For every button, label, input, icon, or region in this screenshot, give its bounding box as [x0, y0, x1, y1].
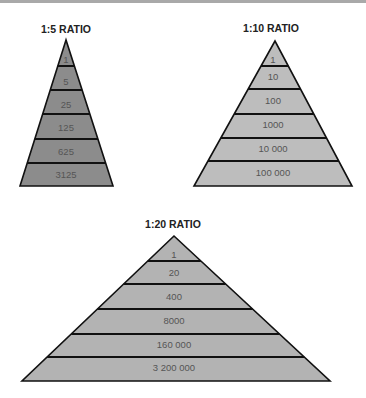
level-label: 20 [169, 267, 180, 278]
level-label: 160 000 [157, 339, 191, 350]
level-label: 10 [268, 71, 279, 82]
level-label: 400 [166, 291, 182, 302]
ratio-pyramids-diagram: 1:5 RATIO 1 5 25 125 625 3125 1:10 RATIO… [0, 0, 366, 398]
pyramid-title: 1:10 RATIO [243, 22, 299, 34]
level-label: 8000 [163, 315, 184, 326]
level-label: 10 000 [258, 143, 287, 154]
pyramid-1-20: 1:20 RATIO 1 20 400 8000 160 000 3 200 0… [22, 218, 330, 381]
level-label: 3 200 000 [153, 362, 195, 373]
level-label: 100 [265, 95, 281, 106]
pyramid-1-5: 1:5 RATIO 1 5 25 125 625 3125 [20, 23, 113, 186]
pyramid-1-10: 1:10 RATIO 1 10 100 1000 10 000 100 000 [194, 22, 352, 186]
level-label: 25 [61, 99, 72, 110]
level-label: 1 [270, 54, 275, 65]
pyramid-title: 1:5 RATIO [41, 23, 91, 35]
level-label: 5 [63, 76, 68, 87]
level-label: 125 [58, 122, 74, 133]
level-label: 1 [171, 249, 176, 260]
level-label: 1 [63, 54, 68, 65]
pyramid-title: 1:20 RATIO [145, 218, 201, 230]
level-label: 1000 [262, 119, 283, 130]
level-label: 100 000 [256, 167, 290, 178]
level-label: 3125 [55, 169, 76, 180]
level-label: 625 [58, 146, 74, 157]
